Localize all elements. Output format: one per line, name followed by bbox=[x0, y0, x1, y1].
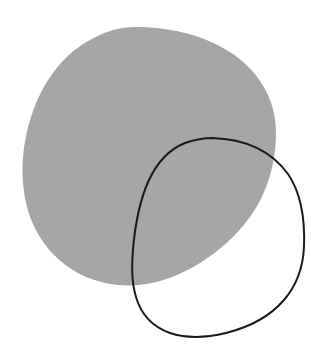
shape-svg-canvas bbox=[0, 0, 311, 359]
figure-canvas: Overlapping shapes figure bbox=[0, 0, 311, 359]
